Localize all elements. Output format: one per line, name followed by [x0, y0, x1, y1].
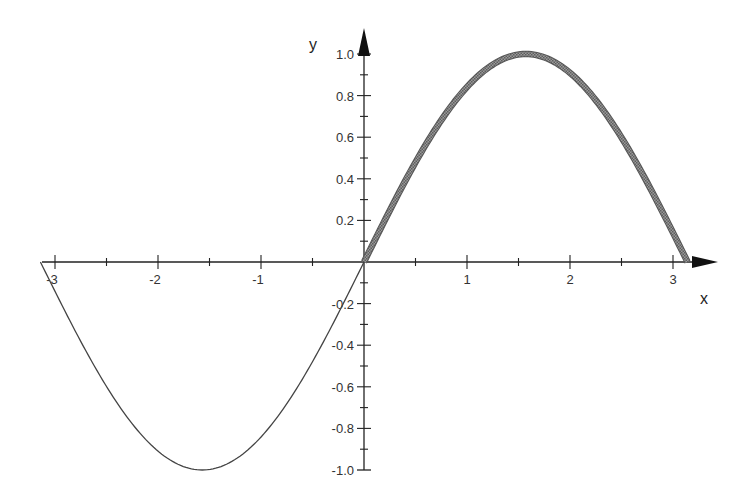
y-tick-label: 0.6 [336, 130, 354, 145]
x-tick-label: -1 [252, 272, 264, 287]
x-axis-arrow-icon [692, 256, 718, 268]
x-tick-label: 2 [566, 272, 573, 287]
y-tick-label: 1.0 [336, 47, 354, 62]
y-tick-label: -0.6 [332, 380, 354, 395]
y-axis-label: y [309, 36, 317, 53]
y-tick-label: 0.2 [336, 213, 354, 228]
x-tick-label: 1 [463, 272, 470, 287]
y-tick-label: -0.8 [332, 421, 354, 436]
sine-curve-positive-half [364, 54, 688, 262]
x-tick-label: 3 [669, 272, 676, 287]
y-tick-label: 0.4 [336, 172, 354, 187]
x-axis-ticks: -3-2-1123 [46, 255, 676, 287]
y-axis-arrow-icon [358, 28, 370, 56]
y-tick-label: -0.4 [332, 338, 354, 353]
sine-curve-positive-half-outline [364, 54, 688, 262]
sine-curve-negative-half [40, 262, 364, 470]
x-axis-label: x [700, 290, 708, 307]
y-tick-label: 0.8 [336, 89, 354, 104]
sine-plot: -3-2-1123 -1.0-0.8-0.6-0.4-0.20.20.40.60… [0, 0, 750, 504]
y-tick-label: -1.0 [332, 463, 354, 478]
x-tick-label: -2 [149, 272, 161, 287]
